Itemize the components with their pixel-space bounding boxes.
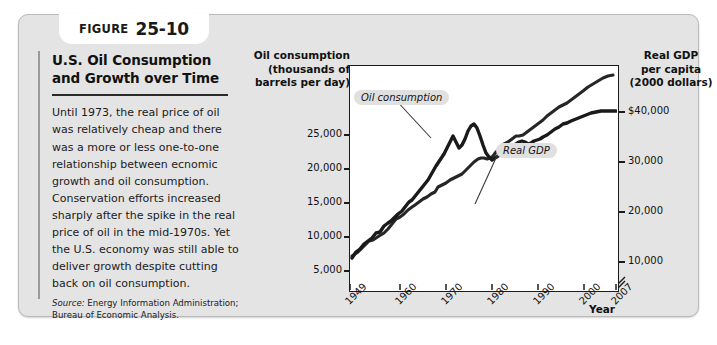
figure-badge-number: 25-10: [136, 19, 189, 39]
y-axis-left-title: Oil consumption (thousands of barrels pe…: [242, 49, 350, 90]
y-right-tick-30000: 30,000: [628, 155, 663, 166]
y-right-tick-10000: 10,000: [628, 255, 663, 266]
chart-area: Oil consumption (thousands of barrels pe…: [244, 51, 716, 316]
x-tick-1949: 1949: [343, 281, 369, 307]
real-gdp-label: Real GDP: [496, 143, 557, 158]
figure-card: Figure 25-10 U.S. Oil Consumption and Gr…: [18, 14, 699, 317]
source-label: Source:: [52, 298, 85, 308]
y-right-tickmark-30000: [619, 161, 625, 163]
y-axis-right-title: Real GDP per capita (2000 dollars): [623, 49, 717, 90]
y-right-tickmark-20000: [619, 211, 625, 213]
y-left-tick-10000: 10,000: [270, 230, 342, 241]
y-left-tick-20000: 20,000: [270, 162, 342, 173]
figure-text-panel: U.S. Oil Consumption and Growth over Tim…: [38, 51, 242, 299]
figure-description: Until 1973, the real price of oil was re…: [52, 104, 242, 292]
y-right-tick-40000: $40,000: [628, 105, 669, 116]
y-right-tickmark-40000: [619, 111, 625, 113]
y-left-tick-15000: 15,000: [270, 196, 342, 207]
y-left-tick-25000: 25,000: [270, 128, 342, 139]
x-tickmarks: [350, 284, 616, 290]
y-right-tickmark-10000: [619, 261, 625, 263]
oil-consumption-label: Oil consumption: [354, 90, 449, 105]
title-divider: [52, 94, 228, 96]
figure-title: U.S. Oil Consumption and Growth over Tim…: [52, 51, 242, 87]
oil-consumption-curve: [352, 111, 616, 258]
figure-badge-label: Figure: [79, 22, 128, 36]
y-left-tick-5000: 5,000: [270, 264, 342, 275]
figure-number-badge: Figure 25-10: [59, 14, 209, 44]
figure-source: Source: Energy Information Administratio…: [52, 298, 242, 322]
x-axis-title: Year: [589, 303, 615, 315]
y-right-tick-20000: 20,000: [628, 205, 663, 216]
